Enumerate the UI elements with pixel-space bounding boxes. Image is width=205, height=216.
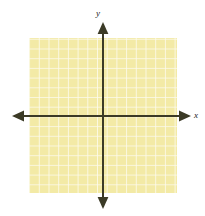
x-axis-right-arrowhead	[179, 111, 191, 122]
coordinate-plane-figure: y x	[0, 0, 205, 216]
y-axis-label: y	[96, 9, 100, 18]
coordinate-plane-canvas	[0, 0, 205, 216]
y-axis-top-arrowhead	[98, 22, 109, 34]
x-axis-label: x	[194, 111, 198, 120]
x-axis-left-arrowhead	[12, 111, 24, 122]
y-axis-bottom-arrowhead	[98, 197, 109, 209]
